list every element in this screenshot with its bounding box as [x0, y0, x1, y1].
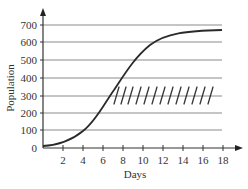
svg-text:12: 12: [158, 154, 169, 166]
svg-text:6: 6: [100, 154, 106, 166]
svg-text:2: 2: [60, 154, 66, 166]
x-axis: [43, 145, 243, 151]
svg-text:8: 8: [120, 154, 126, 166]
y-tick-labels: 0 100 200 300 400 500 600 700: [21, 19, 38, 154]
y-axis-arrow-icon: [40, 8, 46, 16]
svg-text:700: 700: [21, 19, 38, 31]
population-chart: 0 100 200 300 400 500 600 700 2 4 6 8 10…: [0, 0, 248, 189]
svg-text:0: 0: [32, 142, 38, 154]
svg-text:400: 400: [21, 72, 38, 84]
svg-text:16: 16: [198, 154, 210, 166]
x-tick-labels: 2 4 6 8 10 12 14 16 18: [60, 154, 229, 166]
gridlines: [43, 25, 222, 130]
y-axis-title: Population: [4, 64, 16, 112]
svg-text:10: 10: [138, 154, 150, 166]
svg-text:4: 4: [80, 154, 86, 166]
svg-text:500: 500: [21, 54, 38, 66]
svg-text:200: 200: [21, 107, 38, 119]
svg-text:300: 300: [21, 90, 38, 102]
svg-text:14: 14: [178, 154, 190, 166]
svg-text:600: 600: [21, 36, 38, 48]
x-axis-title: Days: [124, 168, 147, 180]
svg-text:100: 100: [21, 124, 38, 136]
x-axis-arrow-icon: [235, 145, 243, 151]
svg-text:18: 18: [218, 154, 230, 166]
